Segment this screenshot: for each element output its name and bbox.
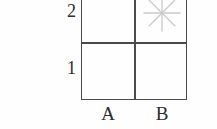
- column-label-b: B: [150, 104, 174, 123]
- grid-cell-b2[interactable]: [134, 0, 187, 43]
- grid-cell-a1[interactable]: [81, 43, 134, 100]
- row-label-1: 1: [58, 59, 76, 77]
- row-label-2: 2: [58, 2, 76, 20]
- grid-diagram: 2 1 A B: [0, 0, 217, 129]
- grid-cell-a2[interactable]: [81, 0, 134, 43]
- grid-cell-b1[interactable]: [134, 43, 187, 100]
- column-label-a: A: [96, 104, 120, 123]
- grid-container: [81, 0, 187, 100]
